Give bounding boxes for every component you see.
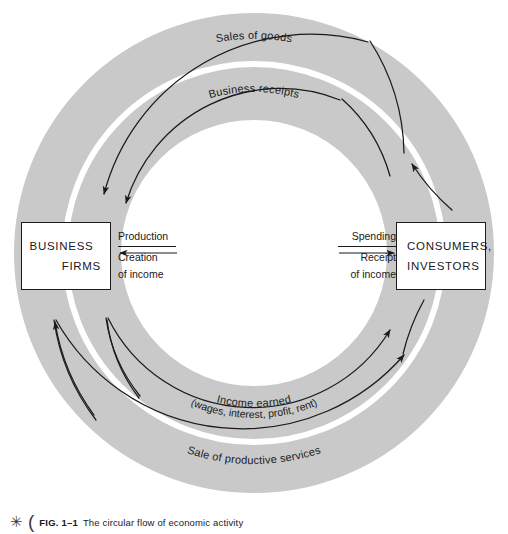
flow-right-below-1: Receipt <box>338 249 396 265</box>
figure-caption-text: The circular flow of economic activity <box>83 517 243 528</box>
flow-left-below-2: of income <box>118 266 176 282</box>
figure-caption: ✳ ( FIG. 1–1 The circular flow of econom… <box>10 510 243 529</box>
consumers-investors-line-1: CONSUMERS, <box>407 236 492 256</box>
flow-right-above: Spending <box>352 230 396 242</box>
handwritten-asterisk-icon: ✳ <box>10 514 23 529</box>
entity-box-business-firms[interactable]: BUSINESS FIRMS <box>21 222 111 290</box>
figure-number: FIG. 1–1 <box>39 517 78 528</box>
circular-flow-diagram: Sales of goods Business receipts Income … <box>0 0 508 534</box>
entity-box-consumers-investors[interactable]: CONSUMERS, INVESTORS <box>396 222 486 290</box>
handwritten-paren-icon: ( <box>28 512 34 531</box>
flow-left-above: Production <box>118 230 168 242</box>
business-firms-line-2: FIRMS <box>62 256 101 276</box>
flow-right-below-2: of income <box>338 266 396 282</box>
business-firms-line-1: BUSINESS <box>30 236 94 256</box>
flow-left-rule <box>118 246 176 247</box>
flow-left-below-1: Creation <box>118 249 176 265</box>
center-flow-right: Spending Receipt of income <box>338 228 396 282</box>
consumers-investors-line-2: INVESTORS <box>407 256 480 276</box>
flow-right-rule <box>338 246 396 247</box>
center-flow-left: Production Creation of income <box>118 228 176 282</box>
